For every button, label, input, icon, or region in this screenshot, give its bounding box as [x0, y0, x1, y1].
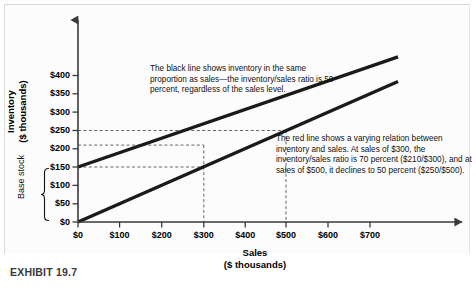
- x-axis-title: Sales ($ thousands): [200, 247, 310, 270]
- exhibit-label: EXHIBIT 19.7: [10, 266, 77, 278]
- annotation-red-line: The red line shows a varying relation be…: [276, 134, 472, 176]
- x-tick-label: $400: [225, 230, 265, 240]
- y-tick-label: $0: [34, 217, 70, 227]
- y-tick-label: $400: [34, 70, 70, 80]
- y-tick-label: $100: [34, 180, 70, 190]
- x-tick-label: $500: [266, 230, 306, 240]
- x-tick-label: $100: [100, 230, 140, 240]
- y-axis-ticks: [73, 76, 79, 223]
- base-stock-brace: [41, 169, 49, 221]
- base-stock-label: Base stock: [16, 146, 26, 208]
- x-tick-label: $600: [308, 230, 348, 240]
- x-tick-label: $200: [142, 230, 182, 240]
- x-tick-label: $700: [350, 230, 390, 240]
- y-tick-label: $300: [34, 107, 70, 117]
- x-tick-label: $0: [58, 230, 98, 240]
- x-tick-label: $300: [184, 230, 224, 240]
- y-tick-label: $200: [34, 143, 70, 153]
- y-tick-label: $350: [34, 88, 70, 98]
- axes: [78, 20, 462, 222]
- y-tick-label: $250: [34, 125, 70, 135]
- exhibit-frame: $400 $350 $300 $250 $200 $150 $100 $50 $…: [0, 0, 476, 291]
- y-tick-label: $150: [34, 162, 70, 172]
- annotation-black-line: The black line shows inventory in the sa…: [150, 64, 340, 96]
- x-axis-ticks: [78, 222, 370, 228]
- y-tick-label: $50: [34, 198, 70, 208]
